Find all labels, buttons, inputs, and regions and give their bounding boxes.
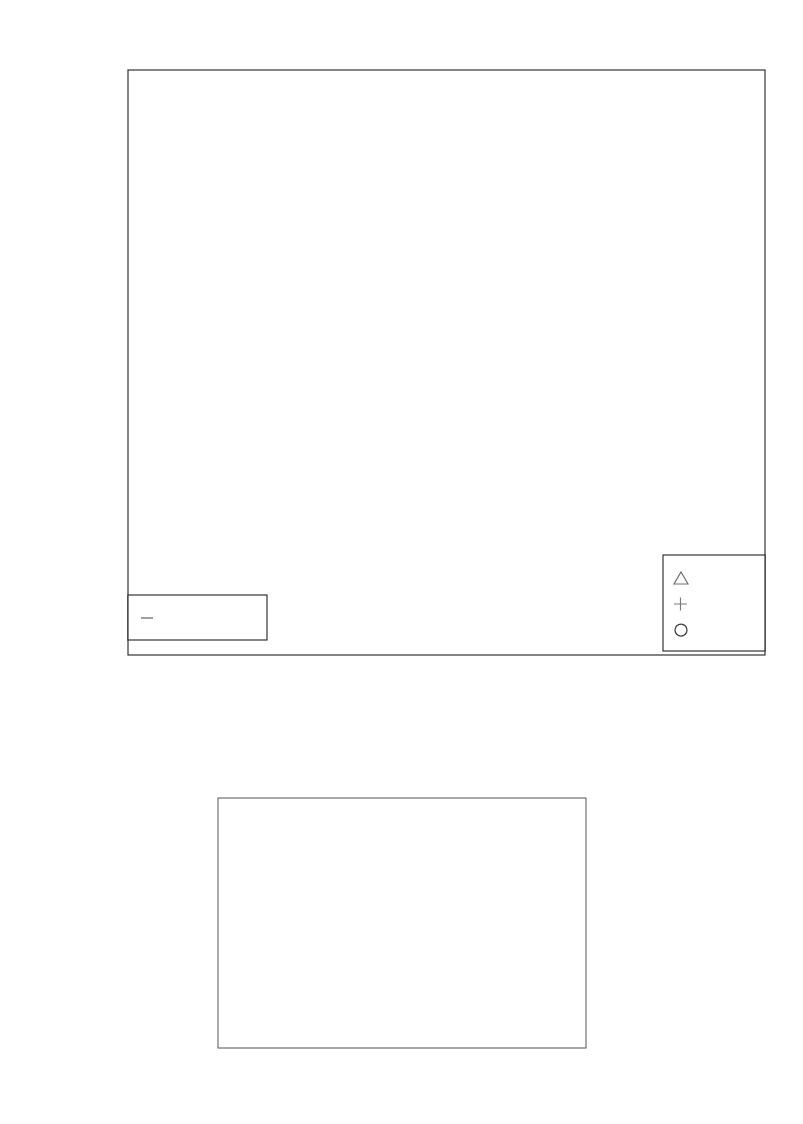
category-legend[interactable] [663,555,765,651]
probe-legend[interactable] [128,595,267,640]
figure-root [0,0,803,1124]
probe-plot-frame [218,798,586,1048]
probe-profile-panel [0,760,803,1124]
pca-biplot-panel [0,0,803,760]
pca-biplot-svg [0,0,803,760]
probe-profile-svg [0,760,803,1124]
